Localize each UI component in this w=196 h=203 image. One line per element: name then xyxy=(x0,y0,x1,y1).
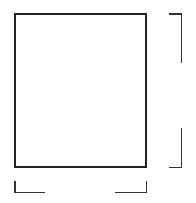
chart-cells xyxy=(16,15,145,166)
bracket-bottom-tick xyxy=(169,167,182,169)
bracket-right-line xyxy=(115,192,147,194)
bracket-left-line xyxy=(14,192,45,194)
bracket-upper-line xyxy=(181,13,183,63)
knitting-chart-grid xyxy=(14,13,147,168)
bracket-lower-line xyxy=(181,128,183,168)
bracket-right-tick xyxy=(146,181,148,193)
